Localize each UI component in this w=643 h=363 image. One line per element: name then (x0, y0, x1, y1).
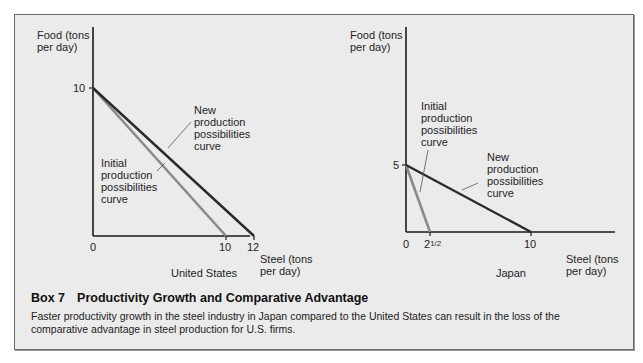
charts-canvas (0, 0, 643, 363)
us-country-label: United States (171, 267, 237, 279)
us-new-leader (168, 122, 191, 148)
japan-x-tick-10: 10 (524, 238, 536, 250)
us-y-axis-label: Food (tons per day) (37, 29, 90, 53)
us-new-curve-label: New production possibilities curve (194, 104, 250, 152)
caption-title: Box 7Productivity Growth and Comparative… (31, 291, 368, 305)
box-number: Box 7 (31, 291, 65, 305)
japan-new-leader (462, 183, 478, 190)
japan-y-axis-label: Food (tons per day) (350, 29, 403, 53)
us-x-axis-label: Steel (tons per day) (260, 253, 313, 277)
us-x-tick-10: 10 (219, 241, 231, 253)
japan-x-tick-2-half: 21/2 (424, 238, 441, 250)
japan-initial-curve-label: Initial production possibilities curve (421, 100, 477, 148)
japan-country-label: Japan (496, 267, 526, 279)
caption-heading: Productivity Growth and Comparative Adva… (77, 291, 368, 305)
japan-initial-leader (420, 150, 428, 192)
japan-origin-label: 0 (403, 238, 409, 250)
japan-x-axis-label: Steel (tons per day) (566, 253, 619, 277)
caption-body: Faster productivity growth in the steel … (31, 310, 591, 336)
us-y-tick-10: 10 (73, 82, 85, 94)
japan-y-tick-5: 5 (393, 159, 399, 171)
us-x-tick-12: 12 (247, 241, 259, 253)
japan-new-curve-label: New production possibilities curve (487, 151, 543, 199)
us-origin-label: 0 (90, 241, 96, 253)
us-initial-curve-label: Initial production possibilities curve (101, 157, 157, 205)
